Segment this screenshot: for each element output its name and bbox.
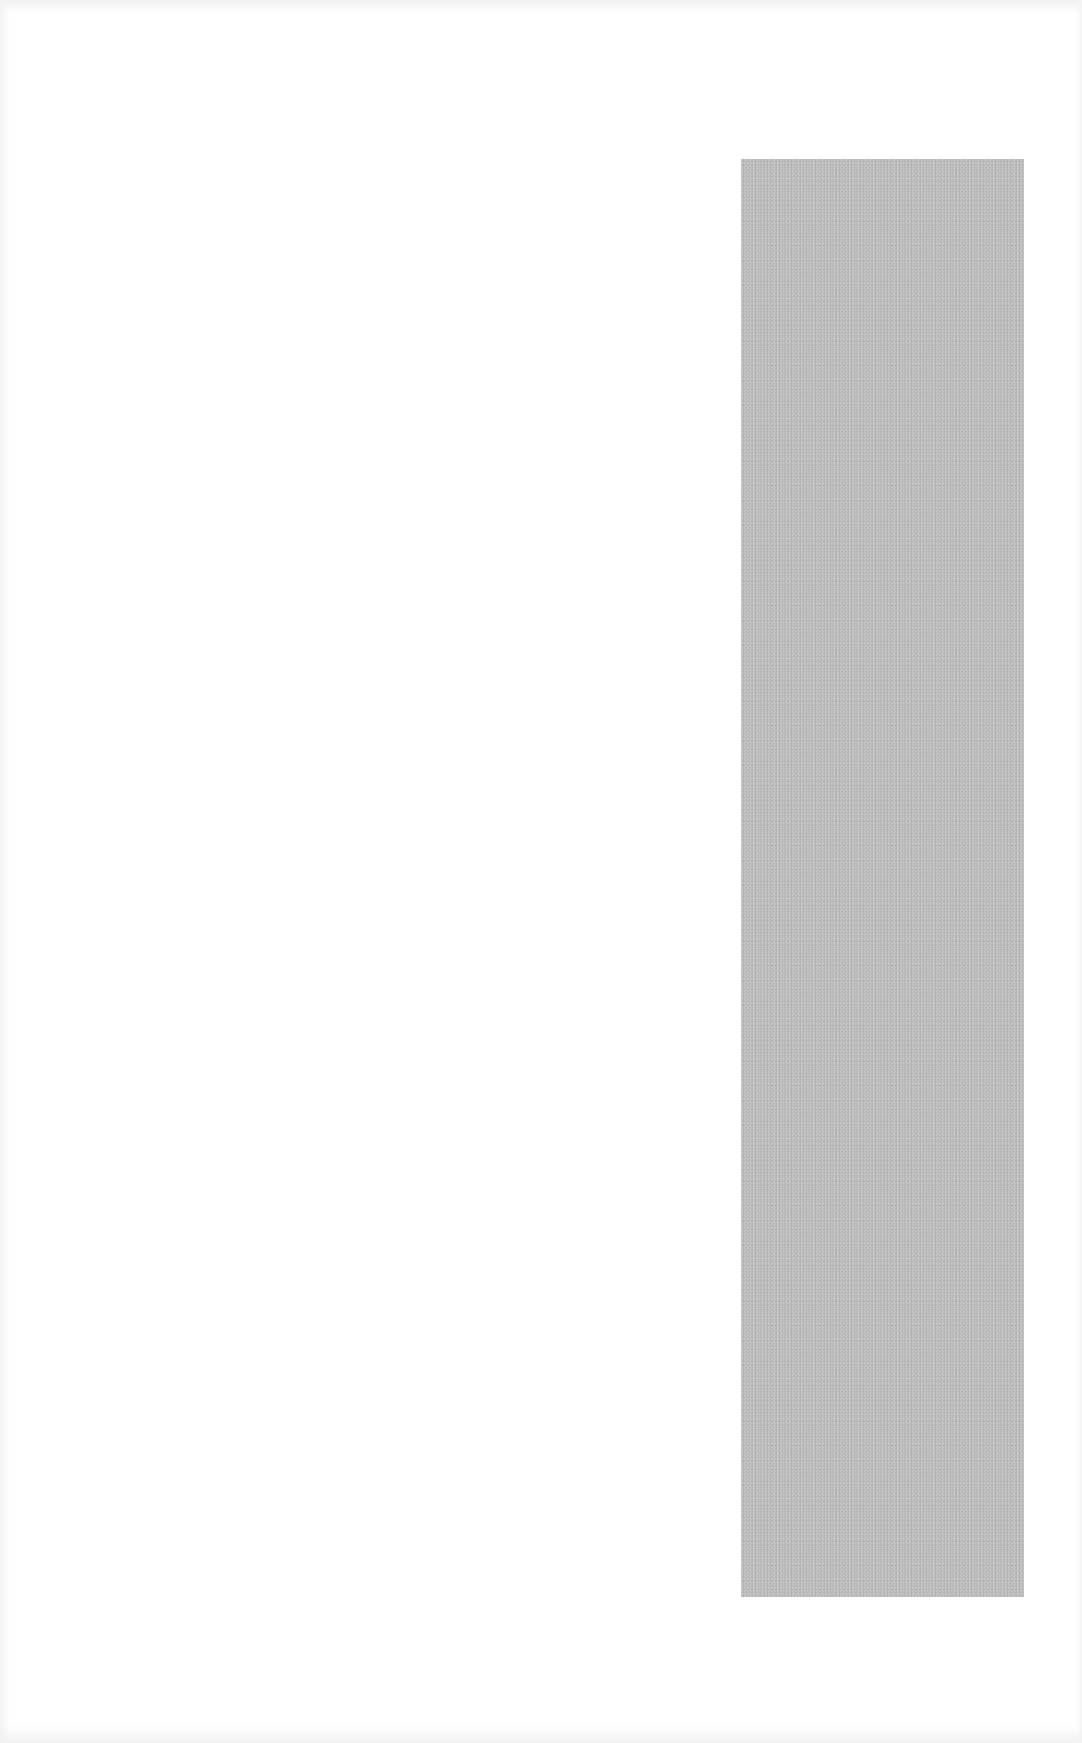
scan-edge-right — [1076, 0, 1082, 1743]
scan-edge-top — [0, 0, 1082, 14]
gray-placeholder-block — [741, 159, 1024, 1597]
scan-edge-left — [0, 0, 10, 1743]
blank-page — [0, 0, 1082, 1743]
scan-edge-bottom — [0, 1725, 1082, 1743]
